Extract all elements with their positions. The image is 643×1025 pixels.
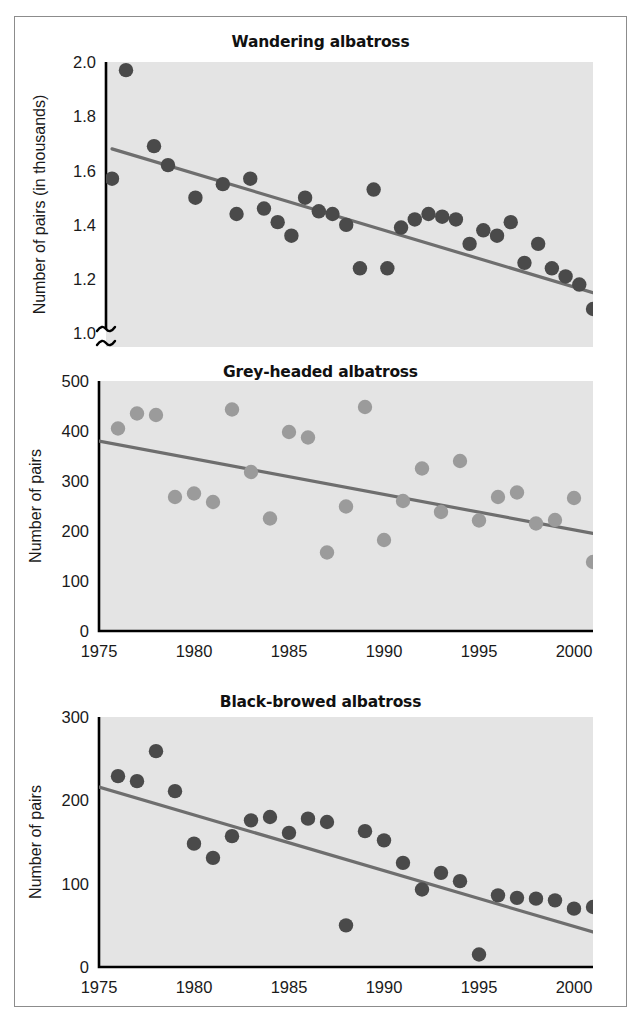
y-tick-label: 300 xyxy=(61,708,89,726)
x-tick-label: 1990 xyxy=(366,642,403,660)
x-tick-label: 1975 xyxy=(81,642,118,660)
y-tick-label: 0 xyxy=(80,958,89,976)
data-point xyxy=(206,851,220,865)
y-tick-label: 300 xyxy=(61,472,89,490)
y-axis-label: Number of pairs xyxy=(27,449,44,563)
data-point xyxy=(168,490,182,504)
data-point xyxy=(396,494,410,508)
y-tick-label: 500 xyxy=(61,372,89,390)
data-point xyxy=(320,815,334,829)
y-tick-label: 1.2 xyxy=(73,270,96,288)
data-point xyxy=(490,229,504,243)
y-tick-label: 2.0 xyxy=(73,53,96,71)
data-point xyxy=(449,212,463,226)
scatter-plot-svg: 01.01.21.41.61.82.01960s1975198019851990… xyxy=(15,17,626,347)
data-point xyxy=(111,421,125,435)
data-point xyxy=(282,425,296,439)
data-point xyxy=(531,237,545,251)
x-tick-label: 1985 xyxy=(271,978,308,996)
data-point xyxy=(325,207,339,221)
data-point xyxy=(504,215,518,229)
data-point xyxy=(545,261,559,275)
plot-area-background xyxy=(106,62,593,347)
chart-panel-black-browed-albatross: Black-browed albatross 01002003001975198… xyxy=(15,677,626,1007)
data-point xyxy=(453,454,467,468)
data-point xyxy=(548,513,562,527)
x-tick-label: 1975 xyxy=(81,978,118,996)
data-point xyxy=(298,191,312,205)
data-point xyxy=(263,511,277,525)
data-point xyxy=(529,516,543,530)
y-axis-label: Number of pairs xyxy=(27,785,44,899)
y-tick-label: 200 xyxy=(61,791,89,809)
data-point xyxy=(244,465,258,479)
data-point xyxy=(339,218,353,232)
data-point xyxy=(168,784,182,798)
data-point xyxy=(421,207,435,221)
data-point xyxy=(572,277,586,291)
data-point xyxy=(301,811,315,825)
data-point xyxy=(491,888,505,902)
data-point xyxy=(119,63,133,77)
data-point xyxy=(301,430,315,444)
data-point xyxy=(263,810,277,824)
data-point xyxy=(282,826,296,840)
scatter-plot-svg: 0100200300400500197519801985199019952000… xyxy=(15,347,626,677)
data-point xyxy=(111,769,125,783)
data-point xyxy=(130,406,144,420)
data-point xyxy=(377,533,391,547)
data-point xyxy=(396,856,410,870)
data-point xyxy=(408,212,422,226)
data-point xyxy=(225,402,239,416)
data-point xyxy=(312,204,326,218)
y-tick-label: 1.0 xyxy=(73,324,96,342)
data-point xyxy=(586,900,600,914)
data-point xyxy=(380,261,394,275)
x-tick-label: 1980 xyxy=(176,642,213,660)
data-point xyxy=(225,829,239,843)
data-point xyxy=(188,191,202,205)
data-point xyxy=(476,223,490,237)
x-tick-label: 1980 xyxy=(176,978,213,996)
data-point xyxy=(358,824,372,838)
data-point xyxy=(130,774,144,788)
y-tick-label: 100 xyxy=(61,572,89,590)
y-tick-label: 1.8 xyxy=(73,107,96,125)
y-tick-label: 400 xyxy=(61,422,89,440)
data-point xyxy=(453,874,467,888)
data-point xyxy=(358,400,372,414)
data-point xyxy=(491,490,505,504)
x-tick-label: 1995 xyxy=(461,978,498,996)
x-tick-label: 1985 xyxy=(271,642,308,660)
data-point xyxy=(567,901,581,915)
scatter-plot-svg: 0100200300197519801985199019952000Number… xyxy=(15,677,626,1007)
x-tick-label: 2000 xyxy=(556,978,593,996)
chart-panel-grey-headed-albatross: Grey-headed albatross 010020030040050019… xyxy=(15,347,626,677)
data-point xyxy=(161,158,175,172)
data-point xyxy=(149,408,163,422)
data-point xyxy=(434,866,448,880)
data-point xyxy=(216,177,230,191)
data-point xyxy=(149,744,163,758)
data-point xyxy=(586,555,600,569)
chart-panel-wandering-albatross: Wandering albatross 01.01.21.41.61.82.01… xyxy=(15,17,626,347)
data-point xyxy=(353,261,367,275)
y-tick-label: 200 xyxy=(61,522,89,540)
data-point xyxy=(187,486,201,500)
data-point xyxy=(472,947,486,961)
data-point xyxy=(206,495,220,509)
data-point xyxy=(270,215,284,229)
data-point xyxy=(567,491,581,505)
figure-frame: Wandering albatross 01.01.21.41.61.82.01… xyxy=(14,16,627,1007)
data-point xyxy=(377,833,391,847)
x-tick-label: 1990 xyxy=(366,978,403,996)
data-point xyxy=(435,210,449,224)
y-axis-label: Number of pairs (in thousands) xyxy=(31,95,48,315)
y-tick-label: 1.6 xyxy=(73,162,96,180)
data-point xyxy=(244,813,258,827)
data-point xyxy=(510,485,524,499)
data-point xyxy=(366,182,380,196)
data-point xyxy=(105,172,119,186)
data-point xyxy=(510,891,524,905)
data-point xyxy=(394,220,408,234)
